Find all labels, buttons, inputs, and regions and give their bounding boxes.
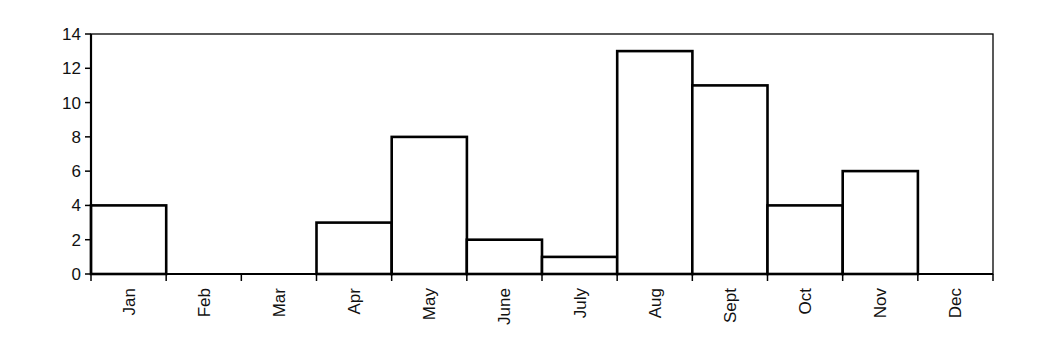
y-tick-label: 12 [62,59,81,78]
y-tick-label: 10 [62,94,81,113]
bar-july: July: 1 [542,257,617,274]
bar-june: June: 2 [467,240,542,274]
x-tick-label-sept: Sept [721,288,740,323]
y-tick-label: 2 [72,231,81,250]
x-axis: JanFebMarAprMayJuneJulyAugSeptOctNovDec [91,274,993,325]
y-tick-label: 14 [62,25,81,44]
x-tick-label-may: May [420,288,439,321]
x-tick-label-jan: Jan [120,288,139,315]
x-tick-label-dec: Dec [946,288,965,319]
x-tick-label-nov: Nov [871,288,890,319]
x-tick-label-feb: Feb [195,288,214,317]
histogram-chart: Jan: 4Apr: 3May: 8June: 2July: 1Aug: 13S… [0,0,1045,356]
bar-aug: Aug: 13 [617,51,692,274]
x-tick-label-aug: Aug [646,288,665,318]
x-tick-label-mar: Mar [270,288,289,318]
bar-apr: Apr: 3 [317,223,392,274]
y-axis: 02468101214 [62,25,91,284]
bars-group: Jan: 4Apr: 3May: 8June: 2July: 1Aug: 13S… [91,51,918,274]
x-tick-label-apr: Apr [345,288,364,315]
bar-sept: Sept: 11 [692,85,767,274]
y-tick-label: 6 [72,162,81,181]
x-tick-label-oct: Oct [796,288,815,315]
x-tick-label-june: June [495,288,514,325]
y-tick-label: 4 [72,196,81,215]
bar-may: May: 8 [392,137,467,274]
bar-jan: Jan: 4 [91,205,166,274]
x-tick-label-july: July [571,288,590,319]
y-tick-label: 0 [72,265,81,284]
y-tick-label: 8 [72,128,81,147]
bar-nov: Nov: 6 [843,171,918,274]
bar-oct: Oct: 4 [768,205,843,274]
